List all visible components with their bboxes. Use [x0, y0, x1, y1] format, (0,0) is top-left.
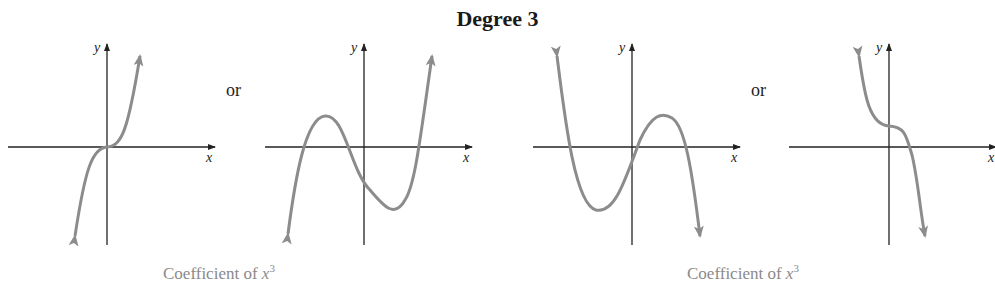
x-axis-label: x: [462, 150, 470, 165]
y-axis-label: y: [617, 40, 626, 55]
x-axis-label: x: [205, 150, 213, 165]
or-connector-2: or: [751, 80, 766, 101]
cubic-curve: [288, 56, 432, 234]
caption-right: Coefficient of x3: [687, 262, 799, 284]
graph-2: y x: [265, 40, 472, 245]
graphs-canvas: y x y x y x y x: [0, 0, 995, 287]
caption-left: Coefficient of x3: [163, 262, 275, 284]
graph-1: y x: [8, 40, 215, 245]
x-axis-label: x: [730, 150, 738, 165]
graph-4: y x: [789, 40, 995, 245]
cubic-curve: [859, 56, 925, 236]
y-axis-label: y: [874, 40, 883, 55]
caption-exponent: 3: [269, 262, 275, 274]
y-axis-label: y: [349, 40, 358, 55]
y-axis-label: y: [92, 40, 101, 55]
or-connector-1: or: [226, 80, 241, 101]
cubic-curve: [557, 56, 700, 236]
caption-exponent: 3: [793, 262, 799, 274]
caption-text: Coefficient of: [163, 264, 262, 283]
graph-3: y x: [533, 40, 740, 245]
caption-text: Coefficient of: [687, 264, 786, 283]
x-axis-label: x: [987, 150, 995, 165]
